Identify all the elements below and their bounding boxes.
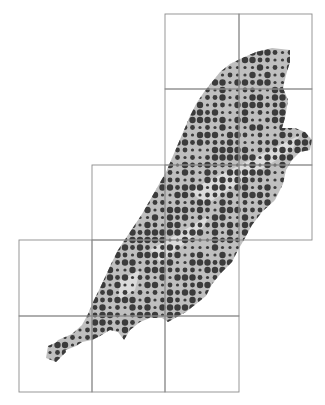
island-landmass (50, 48, 312, 356)
grid-cell (165, 316, 239, 392)
grid-cell (19, 240, 92, 316)
dot-distribution-map (0, 0, 325, 405)
